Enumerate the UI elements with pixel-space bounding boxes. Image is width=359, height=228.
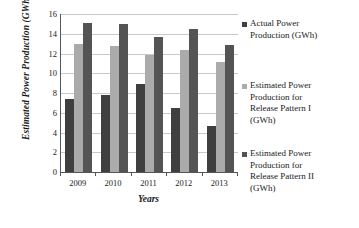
bar-2013-series-0[interactable]: [207, 126, 216, 172]
bar-groups: [61, 14, 238, 172]
bar-2012-series-0[interactable]: [171, 108, 180, 172]
bar-2012-series-2[interactable]: [189, 29, 198, 172]
bar-2012-series-1[interactable]: [180, 50, 189, 172]
bar-2009-series-2[interactable]: [83, 23, 92, 172]
bar-group: [207, 14, 234, 172]
y-tick-label: 4: [53, 128, 57, 137]
x-tick-label-2012: 2012: [170, 178, 197, 190]
bar-2009-series-1[interactable]: [74, 44, 83, 172]
x-axis-tick-labels: 20092010201120122013: [60, 178, 237, 190]
x-tick-label-2011: 2011: [135, 178, 162, 190]
y-tick-label: 10: [49, 69, 58, 78]
bar-group: [171, 14, 198, 172]
bar-group: [101, 14, 128, 172]
y-axis-tick-labels: 0246810121416: [41, 14, 57, 172]
x-tick-mark: [131, 172, 132, 176]
legend-entry-actual-power-production[interactable]: Actual Power Production (GWh): [242, 18, 359, 41]
chart-legend: Actual Power Production (GWh) Estimated …: [242, 18, 359, 218]
legend-label-series-0: Actual Power Production (GWh): [250, 18, 317, 41]
bar-2011-series-0[interactable]: [136, 84, 145, 172]
bar-group: [136, 14, 163, 172]
x-tick-label-2009: 2009: [64, 178, 91, 190]
y-tick-label: 12: [49, 49, 58, 58]
y-axis-title: Estimated Power Production (GWh): [21, 0, 32, 158]
x-tick-mark: [60, 172, 61, 176]
bar-2009-series-0[interactable]: [65, 99, 74, 172]
legend-label-series-2: Estimated Power Production for Release P…: [250, 148, 314, 194]
bar-2011-series-2[interactable]: [154, 37, 163, 172]
x-axis-title: Years: [60, 194, 237, 204]
y-tick-label: 14: [49, 29, 58, 38]
x-tick-mark: [166, 172, 167, 176]
x-tick-mark: [237, 172, 238, 176]
bar-group: [65, 14, 92, 172]
legend-label-series-1: Estimated Power Production for Release P…: [250, 80, 311, 126]
legend-swatch-icon-series-0: [242, 22, 247, 27]
legend-swatch-icon-series-1: [242, 84, 247, 89]
y-tick-label: 2: [53, 148, 57, 157]
y-tick-label: 0: [53, 168, 57, 177]
y-tick-label: 16: [49, 10, 58, 19]
y-tick-label: 6: [53, 108, 57, 117]
bar-chart-figure: Estimated Power Production (GWh) 0246810…: [0, 0, 359, 228]
x-tick-mark: [202, 172, 203, 176]
x-axis-tick-marks: [60, 172, 237, 177]
legend-entry-release-pattern-2[interactable]: Estimated Power Production for Release P…: [242, 148, 359, 194]
x-tick-label-2013: 2013: [206, 178, 233, 190]
plot-area: [60, 14, 238, 173]
legend-swatch-icon-series-2: [242, 152, 247, 157]
bar-2010-series-0[interactable]: [101, 95, 110, 172]
x-tick-mark: [95, 172, 96, 176]
bar-2010-series-1[interactable]: [110, 46, 119, 172]
legend-entry-release-pattern-1[interactable]: Estimated Power Production for Release P…: [242, 80, 359, 126]
bar-2010-series-2[interactable]: [119, 24, 128, 172]
x-tick-label-2010: 2010: [100, 178, 127, 190]
bar-2011-series-1[interactable]: [145, 55, 154, 172]
bar-2013-series-1[interactable]: [216, 62, 225, 172]
bar-2013-series-2[interactable]: [225, 45, 234, 172]
y-tick-label: 8: [53, 89, 57, 98]
